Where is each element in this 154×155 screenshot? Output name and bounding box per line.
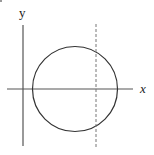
x-axis-label: x	[139, 81, 146, 96]
y-axis-label: y	[19, 5, 26, 20]
corner-mark	[0, 0, 2, 2]
diagram-canvas: y x	[0, 0, 154, 155]
